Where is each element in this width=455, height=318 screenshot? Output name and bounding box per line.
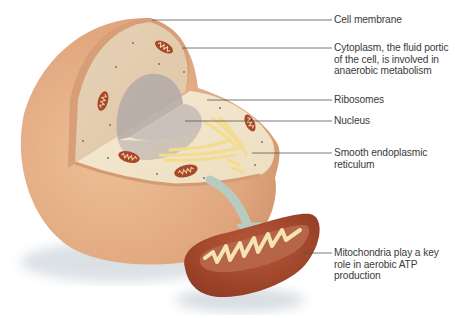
label-mitochondria: Mitochondria play a key role in aerobic … bbox=[334, 247, 439, 282]
label-smooth-er: Smooth endoplasmic reticulum bbox=[334, 147, 427, 170]
label-nucleus: Nucleus bbox=[334, 115, 370, 127]
label-cell-membrane: Cell membrane bbox=[334, 14, 402, 26]
label-ribosomes: Ribosomes bbox=[334, 94, 384, 106]
label-cytoplasm: Cytoplasm, the fluid portic of the cell,… bbox=[334, 42, 449, 77]
